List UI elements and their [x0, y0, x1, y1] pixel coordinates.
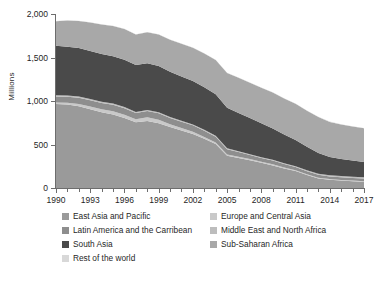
y-axis-title: Millions [7, 52, 16, 122]
legend-label: Europe and Central Asia [221, 212, 311, 221]
legend-swatch-icon [210, 213, 217, 220]
y-tick-label: 2,000 [27, 9, 48, 19]
legend-item[interactable]: Rest of the world [62, 254, 210, 263]
x-tick-minor [147, 188, 148, 192]
x-tick-major [261, 188, 262, 193]
x-tick-label: 1993 [81, 195, 100, 205]
y-tick [51, 14, 56, 15]
x-tick-minor [318, 188, 319, 192]
x-tick-label: 2014 [320, 195, 339, 205]
x-tick-major [227, 188, 228, 193]
legend-label: East Asia and Pacific [73, 212, 150, 221]
x-tick-label: 2008 [252, 195, 271, 205]
y-tick [51, 58, 56, 59]
legend-swatch-icon [62, 241, 69, 248]
legend-item[interactable]: East Asia and Pacific [62, 212, 210, 221]
x-tick-minor [136, 188, 137, 192]
legend-item[interactable]: South Asia [62, 240, 210, 249]
legend-label: Sub-Saharan Africa [221, 240, 293, 249]
x-tick-label: 1996 [115, 195, 134, 205]
x-tick-minor [239, 188, 240, 192]
x-tick-minor [284, 188, 285, 192]
legend-swatch-icon [62, 255, 69, 262]
legend-label: South Asia [73, 240, 113, 249]
legend-swatch-icon [210, 241, 217, 248]
x-tick-major [90, 188, 91, 193]
y-tick-label: 0 [43, 183, 48, 193]
x-tick-minor [250, 188, 251, 192]
x-tick-major [330, 188, 331, 193]
legend-label: Latin America and the Carribean [73, 226, 192, 235]
chart-legend: East Asia and PacificEurope and Central … [62, 212, 368, 268]
legend-item[interactable]: Europe and Central Asia [210, 212, 368, 221]
x-tick-major [56, 188, 57, 193]
y-tick-label: 500 [34, 140, 48, 150]
x-tick-minor [102, 188, 103, 192]
x-tick-minor [113, 188, 114, 192]
x-tick-minor [273, 188, 274, 192]
x-tick-minor [307, 188, 308, 192]
x-tick-label: 2002 [183, 195, 202, 205]
x-tick-minor [341, 188, 342, 192]
legend-swatch-icon [210, 227, 217, 234]
x-tick-label: 1990 [47, 195, 66, 205]
legend-swatch-icon [62, 227, 69, 234]
x-tick-label: 1999 [149, 195, 168, 205]
stacked-area-chart: Millions 05001,0001,5002,000 19901993199… [0, 0, 376, 286]
x-tick-minor [79, 188, 80, 192]
x-tick-major [364, 188, 365, 193]
x-tick-minor [181, 188, 182, 192]
y-tick [51, 145, 56, 146]
legend-swatch-icon [62, 213, 69, 220]
x-tick-minor [216, 188, 217, 192]
x-tick-major [159, 188, 160, 193]
x-tick-label: 2011 [286, 195, 304, 205]
plot-area: 05001,0001,5002,000 19901993199619992002… [56, 14, 364, 188]
x-tick-minor [353, 188, 354, 192]
x-tick-minor [170, 188, 171, 192]
x-tick-label: 2017 [355, 195, 374, 205]
x-tick-label: 2005 [218, 195, 237, 205]
x-tick-major [193, 188, 194, 193]
x-tick-major [124, 188, 125, 193]
y-tick-label: 1,500 [27, 53, 48, 63]
stacked-area-series-group [56, 14, 364, 188]
legend-label: Rest of the world [73, 254, 135, 263]
legend-label: Middle East and North Africa [221, 226, 326, 235]
legend-item[interactable]: Latin America and the Carribean [62, 226, 210, 235]
y-tick-label: 1,000 [27, 96, 48, 106]
legend-item[interactable]: Middle East and North Africa [210, 226, 368, 235]
y-tick [51, 101, 56, 102]
legend-item[interactable]: Sub-Saharan Africa [210, 240, 368, 249]
x-tick-minor [204, 188, 205, 192]
x-tick-major [296, 188, 297, 193]
x-tick-minor [67, 188, 68, 192]
